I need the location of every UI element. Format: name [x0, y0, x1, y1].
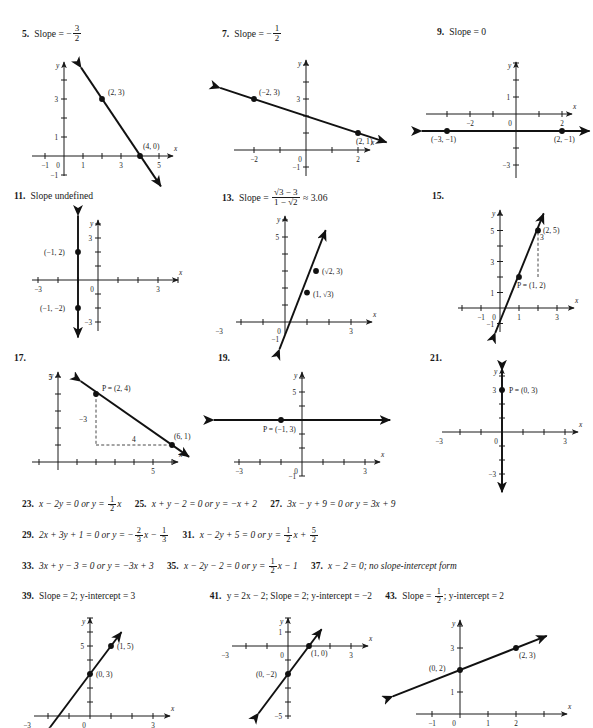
answer-item-43: 43. Slope = 1 2 ; y-intercept = 2	[385, 588, 504, 606]
y-axis-label: y	[279, 617, 284, 626]
fraction-numerator: 5	[310, 527, 318, 535]
fraction: 1 2	[269, 558, 277, 576]
question-number: 15.	[432, 190, 444, 201]
x-axis-label: x	[170, 704, 175, 713]
data-point	[251, 96, 257, 102]
question-number: 43.	[385, 591, 397, 601]
question-number: 31.	[183, 530, 195, 540]
question-number: 33.	[22, 561, 34, 571]
x-tick-label: −3	[435, 438, 443, 446]
point-label: (1, 5)	[117, 642, 134, 651]
x-tick-label: 2	[560, 120, 564, 128]
x-tick-label: 3	[156, 286, 160, 294]
data-point	[535, 228, 541, 234]
graph-19: −33−150xyP = (−1, 3)	[228, 366, 388, 484]
fraction-denominator: 2	[108, 504, 116, 513]
question-number: 9.	[437, 26, 444, 37]
answer-tail: ; y-intercept = 2	[444, 591, 504, 601]
data-point	[444, 128, 450, 134]
data-point	[457, 667, 463, 673]
origin-label: 0	[492, 314, 496, 322]
x-axis-label: x	[173, 144, 178, 153]
answer-text: x − 2y − 2 = 0 or y =	[184, 561, 268, 571]
y-tick-label: −3	[488, 471, 496, 479]
data-point	[93, 391, 99, 397]
x-tick-label: 3	[555, 314, 559, 322]
data-point	[75, 249, 81, 255]
answer-item-39: 39. Slope = 2; y-intercept = 3	[22, 591, 135, 601]
answer-text: Slope =	[402, 591, 433, 601]
graph-7-svg: −22−130xy(−2, 3)(2, 1)	[228, 54, 378, 184]
answer-row-29: 29. 2x + 3y + 1 = 0 or y = − 2 3 x − 1 3…	[22, 527, 330, 545]
question-number: 19.	[218, 352, 230, 363]
graph-43-svg: −112130xy(2, 3)(0, 2)	[410, 614, 575, 726]
answer-text: Slope =	[34, 28, 64, 39]
fraction-numerator: 1	[284, 527, 292, 535]
x-tick-label: −3	[235, 468, 243, 476]
data-point	[99, 96, 105, 102]
fraction: 1 2	[273, 24, 282, 43]
graph-21-svg: −33−330xyP = (0, 3)	[436, 362, 586, 492]
fraction-numerator: 1	[108, 496, 116, 504]
y-axis-label: y	[49, 371, 54, 380]
origin-label: 0	[294, 468, 298, 476]
answer-header-13: 13.Slope = √3 − 3 1 − √2 ≈ 3.06	[222, 188, 327, 207]
graph-39: −3350xy(1, 5)(0, 3)	[28, 612, 178, 727]
answer-text: Slope undefined	[30, 190, 93, 201]
graph-43: −112130xy(2, 3)(0, 2)	[410, 614, 575, 726]
fraction-2: 1 3	[160, 527, 168, 545]
y-axis-label: y	[81, 617, 86, 626]
x-axis-label: x	[368, 634, 373, 643]
minus-sign: −	[266, 28, 271, 39]
question-number: 11.	[14, 190, 25, 201]
data-point	[108, 643, 114, 649]
fraction-numerator: 1	[160, 527, 168, 535]
y-tick-label: 5	[80, 643, 84, 651]
question-number: 7.	[222, 28, 229, 39]
y-axis-label: y	[55, 61, 60, 70]
approx-value: ≈ 3.06	[303, 192, 327, 203]
graph-11: −33−330xy(−1, 2)(−1, −2)	[26, 214, 186, 339]
answer-item-29: 29. 2x + 3y + 1 = 0 or y = − 2 3 x − 1 3	[22, 527, 169, 545]
x-tick-label: −1	[428, 720, 436, 728]
x-tick-label: −3	[23, 722, 31, 728]
y-tick-label: 3	[296, 96, 300, 104]
point-label: (4, 0)	[143, 142, 160, 151]
question-number: 27.	[270, 499, 282, 509]
graph-17-svg: 55xy−34P = (2, 4)(6, 1)	[26, 366, 186, 478]
x-tick-label: 1	[517, 314, 521, 322]
data-point	[559, 128, 565, 134]
fraction-numerator: 2	[135, 527, 143, 535]
x-tick-label: 3	[151, 722, 155, 728]
origin-label: 0	[90, 286, 94, 294]
point-label: (2, 5)	[543, 226, 560, 235]
point-label: P = (2, 4)	[102, 384, 131, 393]
dashed-rise-segment-label: −3	[79, 415, 87, 424]
x-tick-label: 2	[514, 720, 518, 728]
x-axis-label: x	[567, 702, 572, 711]
question-number: 13.	[222, 192, 234, 203]
graph-13-svg: −33−150xy(√2, 3)(1, √3)	[230, 210, 380, 342]
question-number: 41.	[210, 591, 222, 601]
y-tick-label: −1	[50, 172, 58, 180]
y-tick-label: −1	[271, 336, 279, 344]
x-tick-label: 3	[119, 162, 123, 170]
fraction-numerator: √3 − 3	[272, 188, 300, 197]
answer-text: 3x − y + 9 = 0 or y = 3x + 9	[287, 499, 395, 509]
y-axis-label: y	[507, 61, 512, 70]
x-tick-label: −2	[250, 156, 258, 164]
answer-header-15: 15.	[432, 190, 449, 201]
point-label: (−1, 2)	[44, 248, 65, 257]
point-label: (−1, −2)	[40, 304, 65, 313]
y-axis-label: y	[451, 619, 456, 628]
answer-text: 3x + y − 3 = 0 or y = −3x + 3	[39, 561, 154, 571]
fraction-denominator: 2	[284, 535, 292, 544]
answer-text: x + y − 2 = 0 or y = −x + 2	[152, 499, 257, 509]
x-tick-label: −1	[477, 314, 485, 322]
y-axis-label: y	[297, 59, 302, 68]
fraction-denominator: 1 − √2	[272, 197, 300, 207]
point-label: (−3, −1)	[431, 135, 456, 144]
graph-17: 55xy−34P = (2, 4)(6, 1)	[26, 366, 186, 478]
question-number: 35.	[167, 561, 179, 571]
graph-5: −1135−1130xy(2, 3)(4, 0)	[26, 56, 181, 184]
